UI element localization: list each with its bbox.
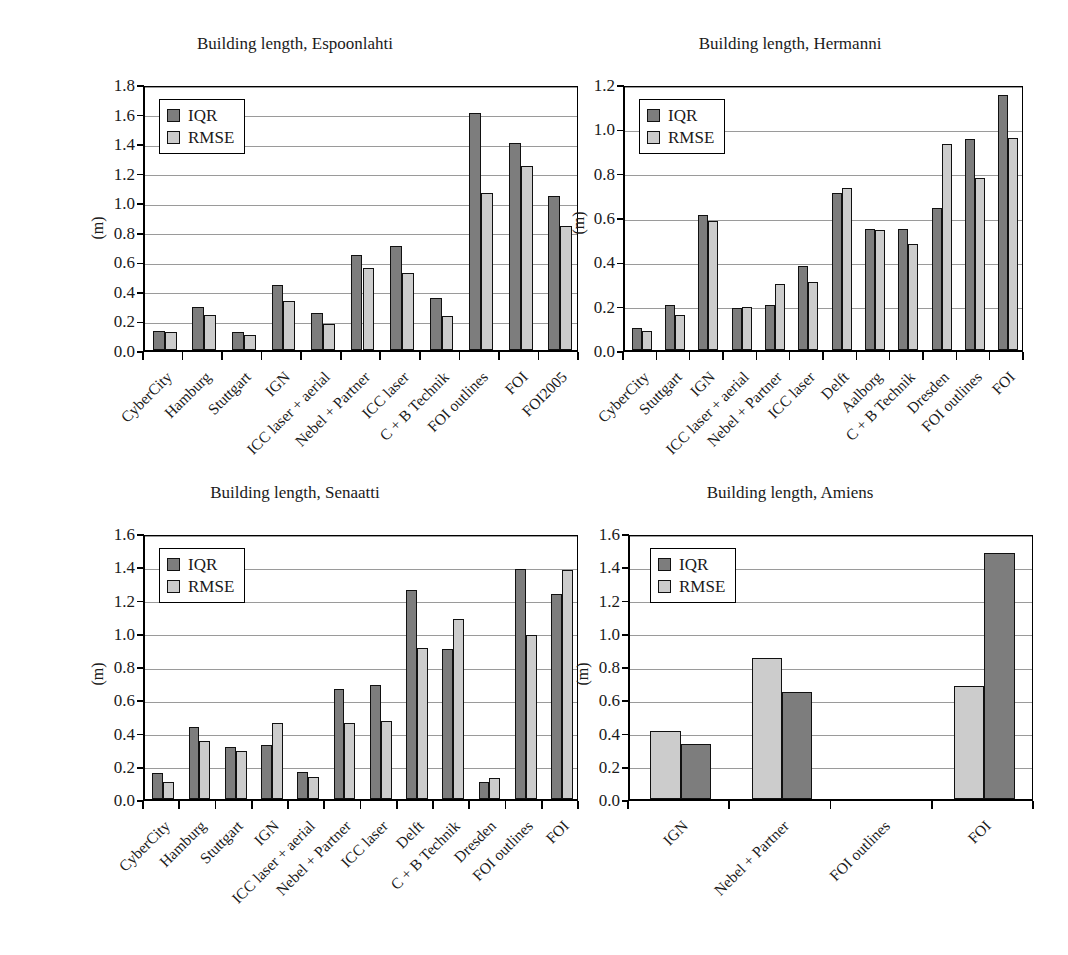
bar-iqr-ign [698,215,708,350]
bar-iqr-delft [406,590,417,799]
x-tick-mark [468,801,470,809]
legend-label: IQR [188,556,217,573]
bar-rmse-stuttgart [244,335,256,350]
y-tick-mark [617,263,624,265]
x-tick-mark [656,352,658,360]
bar-iqr-foi [509,143,521,350]
y-tick-label: 1.4 [576,559,620,576]
legend-label: RMSE [188,129,234,146]
y-tick-label: 0.0 [576,792,620,809]
chart-title: Building length, Hermanni [545,34,1035,54]
legend-label: RMSE [668,129,714,146]
legend-item-rmse: RMSE [647,126,714,148]
bar-rmse-foi-outlines [481,193,493,350]
bar-rmse-foi [521,166,533,350]
bar-iqr-dresden [479,782,490,799]
y-tick-label: 0.8 [91,659,135,676]
y-tick-mark [137,700,144,702]
bar-iqr-nebel-partner [782,692,812,799]
bar-rmse-ign [708,221,718,350]
plot-area: IQRRMSE [143,86,578,352]
y-tick-label: 0.8 [571,166,615,183]
bar-rmse-dresden [942,144,952,350]
y-tick-mark [622,667,629,669]
y-tick-mark [137,534,144,536]
y-tick-label: 1.2 [576,593,620,610]
bar-rmse-cybercity [163,782,174,799]
legend-item-iqr: IQR [167,553,234,575]
legend-swatch-iqr-icon [167,558,180,571]
x-tick-mark [432,801,434,809]
plot-area: IQRRMSE [143,535,578,801]
bar-rmse-foi-outlines [526,635,537,799]
x-tick-mark [221,352,223,360]
bar-rmse-delft [842,188,852,350]
bar-rmse-foi-outlines [975,178,985,350]
bar-iqr-nebel-partner [334,689,345,799]
x-tick-mark [922,352,924,360]
bar-rmse-nebel-partner [344,723,355,799]
bar-iqr-dresden [932,208,942,350]
y-tick-label: 0.8 [91,225,135,242]
x-tick-mark [182,352,184,360]
bar-rmse-hamburg [204,315,216,350]
y-tick-mark [622,534,629,536]
legend-item-iqr: IQR [647,104,714,126]
y-tick-label: 0.6 [571,210,615,227]
y-tick-mark [137,567,144,569]
x-tick-mark [1032,801,1034,809]
plot-area: IQRRMSE [623,86,1023,352]
legend-swatch-iqr-icon [658,558,671,571]
bar-iqr-ign [261,745,272,799]
bar-iqr-foi [998,95,1008,350]
legend-item-rmse: RMSE [658,575,725,597]
bar-iqr-icc-laser [798,266,808,350]
x-tick-mark [756,352,758,360]
bar-iqr-foi [984,553,1014,799]
y-tick-mark [617,218,624,220]
x-tick-mark [323,801,325,809]
y-tick-mark [617,174,624,176]
y-tick-mark [137,144,144,146]
y-tick-mark [137,174,144,176]
y-tick-mark [137,263,144,265]
x-tick-mark [622,352,624,360]
bar-rmse-c-b-technik [453,619,464,799]
bar-rmse-aalborg [875,230,885,350]
chart-panel-building-length-hermanni: Building length, Hermanni(m)IQRRMSE0.00.… [545,34,1035,464]
bar-iqr-ign [681,744,711,799]
bar-iqr-foi-outlines [515,569,526,799]
bar-iqr-c-b-technik [430,298,442,350]
bar-iqr-nebel-partner [351,255,363,350]
legend-swatch-rmse-icon [658,580,671,593]
legend: IQRRMSE [650,548,736,603]
bar-rmse-icc-laser [402,273,414,350]
bar-iqr-cybercity [152,773,163,799]
y-tick-label: 1.8 [91,77,135,94]
legend-item-rmse: RMSE [167,575,234,597]
y-tick-label: 1.4 [91,136,135,153]
y-tick-mark [622,734,629,736]
bar-iqr-ign [272,285,284,350]
y-tick-mark [617,307,624,309]
y-tick-label: 0.2 [576,759,620,776]
bar-iqr-delft [832,193,842,350]
bar-iqr-nebel-partner [765,305,775,350]
y-tick-mark [137,115,144,117]
bar-rmse-c-b-technik [908,244,918,350]
y-tick-label: 0.4 [576,726,620,743]
y-tick-label: 1.0 [91,195,135,212]
y-tick-mark [137,292,144,294]
bar-rmse-ign [283,301,295,350]
y-tick-label: 0.2 [571,299,615,316]
y-tick-label: 1.2 [571,77,615,94]
y-tick-label: 1.2 [91,166,135,183]
x-tick-mark [822,352,824,360]
plot-area: IQRRMSE [628,535,1033,801]
bar-rmse-nebel-partner [752,658,782,799]
bar-rmse-icc-laser-aerial [308,777,319,799]
bar-rmse-dresden [489,778,500,799]
legend-label: IQR [668,107,697,124]
chart-title: Building length, Senaatti [60,483,530,503]
bar-iqr-aalborg [865,229,875,350]
